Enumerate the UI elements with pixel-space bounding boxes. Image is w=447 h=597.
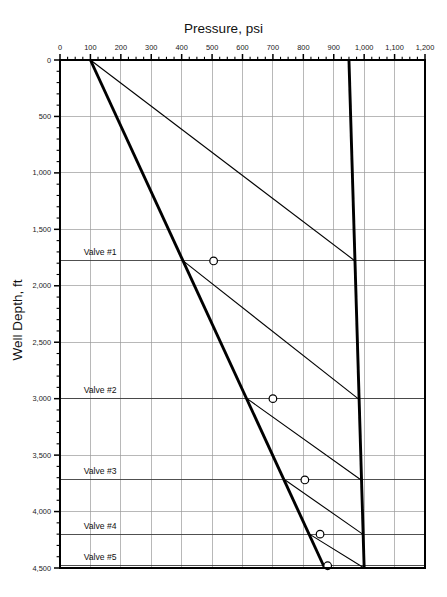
x-axis-tick-labels: 01002003004005006007008009001,0001,1001,… [58, 43, 434, 52]
series-production-flowing-gradient [90, 60, 324, 568]
valve-label: Valve #4 [84, 521, 117, 531]
gridlines [60, 60, 425, 568]
series-kickoff-unloading-gradient [90, 60, 355, 261]
chart-title: Pressure, psi [184, 21, 263, 36]
x-tick-label: 1,000 [355, 43, 374, 52]
gas-lift-valve-depth-chart: Pressure, psi Well Depth, ft 01002003004… [0, 0, 447, 597]
x-tick-label: 700 [267, 43, 279, 52]
x-tick-label: 0 [58, 43, 62, 52]
y-tick-label: 4,000 [33, 507, 52, 516]
y-tick-label: 3,500 [33, 451, 52, 460]
y-axis-title: Well Depth, ft [10, 279, 25, 360]
x-tick-label: 200 [115, 43, 127, 52]
axis-ticks [54, 54, 425, 568]
y-tick-label: 4,500 [33, 564, 52, 573]
y-axis-tick-labels: 05001,0001,5002,0002,5003,0003,5004,0004… [33, 56, 52, 573]
y-tick-label: 2,500 [33, 338, 52, 347]
y-tick-label: 500 [39, 112, 51, 121]
x-tick-label: 1,100 [385, 43, 404, 52]
y-tick-label: 3,000 [33, 394, 52, 403]
x-tick-label: 800 [297, 43, 309, 52]
pressure-gradient-lines [90, 60, 364, 568]
valve-marker [210, 257, 218, 265]
valve-label: Valve #5 [84, 552, 117, 562]
chart-canvas: Pressure, psi Well Depth, ft 01002003004… [0, 0, 447, 597]
y-tick-label: 1,500 [33, 225, 52, 234]
valve-label: Valve #3 [84, 466, 117, 476]
valve-label: Valve #2 [84, 385, 117, 395]
valve-marker [316, 530, 324, 538]
x-tick-label: 300 [145, 43, 157, 52]
y-tick-label: 1,000 [33, 168, 52, 177]
valve-markers [210, 257, 332, 569]
x-tick-label: 600 [236, 43, 248, 52]
valve-marker [301, 476, 309, 484]
y-tick-label: 2,000 [33, 281, 52, 290]
series-transfer-gradient-valve-1 [183, 261, 358, 399]
valve-marker [269, 395, 277, 403]
y-tick-label: 0 [47, 56, 51, 65]
x-tick-label: 900 [328, 43, 340, 52]
valve-labels: Valve #1Valve #2Valve #3Valve #4Valve #5 [84, 247, 117, 562]
series-gas-injection-pressure [349, 60, 364, 568]
x-tick-label: 100 [84, 43, 96, 52]
x-tick-label: 1,200 [416, 43, 435, 52]
x-tick-label: 500 [206, 43, 218, 52]
valve-label: Valve #1 [84, 247, 117, 257]
x-tick-label: 400 [175, 43, 187, 52]
